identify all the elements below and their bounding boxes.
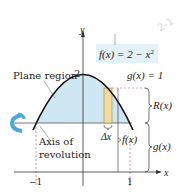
x-axis-arrow-icon [156,170,162,174]
delta-x-brace [104,125,112,130]
y-axis-label: y [79,24,85,35]
f-bracket-label: f(x) [122,133,138,146]
g-bracket-label: g(x) [153,140,171,153]
r-bracket-label: R(x) [152,99,172,112]
volume-of-revolution-diagram: y x f(x) = 2 − x2 g(x) = 1 Plane region … [0,0,186,193]
representative-rectangle [104,88,112,123]
rotation-arrow-icon [12,114,24,131]
plane-region-leader [44,81,55,98]
function-label: f(x) = 2 − x2 [99,48,155,61]
r-bracket [145,88,152,123]
plane-region-label: Plane region [13,70,78,81]
handwritten-note: 2-1 [156,15,176,33]
x-tick-neg-one: −1 [29,177,42,187]
axis-function-label: g(x) = 1 [127,69,163,82]
g-bracket [145,123,152,172]
x-axis-label: x [163,167,169,178]
delta-x-label: Δx [100,131,112,142]
axis-of-revolution-label-line2: revolution [39,149,91,160]
y-tick-two: 2 [74,68,80,79]
f-bracket [118,138,121,142]
axis-of-revolution-label-line1: Axis of [38,136,74,147]
x-tick-one: 1 [127,177,133,187]
